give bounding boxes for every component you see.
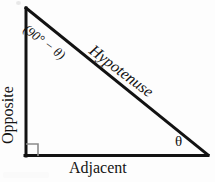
theta-angle-label: θ — [175, 134, 182, 149]
adjacent-side-label: Adjacent — [69, 160, 127, 176]
scan-artifact-top — [16, 1, 21, 5]
scan-artifact-bottom — [3, 172, 49, 178]
right-triangle-figure: Opposite Adjacent Hypotenuse (90° − θ) θ — [0, 0, 215, 182]
opposite-side-label: Opposite — [0, 86, 16, 144]
